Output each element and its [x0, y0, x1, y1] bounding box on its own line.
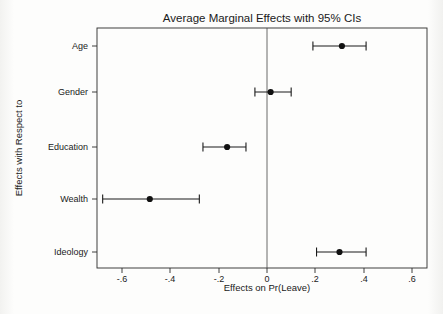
- chart-title: Average Marginal Effects with 95% CIs: [163, 12, 362, 24]
- point-estimate-marker: [147, 196, 153, 202]
- x-tick-label: -.6: [117, 274, 128, 284]
- estimate-row-wealth: [103, 195, 200, 204]
- x-tick-label: -.4: [165, 274, 176, 284]
- marginal-effects-forest-plot: Average Marginal Effects with 95% CIs Ef…: [0, 0, 443, 314]
- category-label-ideology: Ideology: [54, 247, 89, 257]
- x-tick-labels: -.6 -.4 -.2 0 .2 .4 .6: [117, 274, 416, 284]
- point-estimate-marker: [339, 43, 345, 49]
- point-estimate-marker: [224, 144, 230, 150]
- chart-page: Average Marginal Effects with 95% CIs Ef…: [0, 0, 443, 314]
- estimate-row-age: [313, 42, 366, 51]
- estimate-row-education: [203, 143, 246, 152]
- y-axis-label: Effects with Respect to: [13, 100, 24, 196]
- x-tick-label: .6: [408, 274, 416, 284]
- category-label-gender: Gender: [58, 87, 88, 97]
- plot-frame: [97, 28, 427, 268]
- x-tick-label: -.2: [214, 274, 225, 284]
- estimate-series: [103, 42, 366, 257]
- category-label-education: Education: [48, 142, 88, 152]
- x-tick-marks: [122, 268, 412, 273]
- point-estimate-marker: [268, 89, 274, 95]
- x-tick-label: .4: [360, 274, 368, 284]
- point-estimate-marker: [336, 249, 342, 255]
- category-label-wealth: Wealth: [60, 194, 88, 204]
- category-label-age: Age: [72, 41, 88, 51]
- estimate-row-ideology: [317, 248, 367, 257]
- y-tick-labels: Age Gender Education Wealth Ideology: [48, 41, 89, 257]
- x-tick-label: 0: [264, 274, 269, 284]
- estimate-row-gender: [255, 88, 291, 97]
- y-tick-marks: [92, 46, 97, 252]
- x-tick-label: .2: [311, 274, 319, 284]
